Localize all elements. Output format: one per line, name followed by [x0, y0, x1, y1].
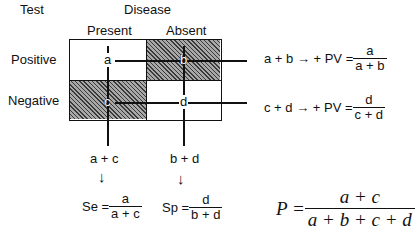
- sp-fraction: d b + d: [189, 193, 222, 222]
- sp-lhs: Sp =: [162, 200, 189, 215]
- down-arrow-icon: ↓: [177, 172, 185, 186]
- ppv-numerator: a: [364, 44, 375, 58]
- se-numerator: a: [120, 192, 131, 206]
- positive-predictive-formula: a + b → + PV = a a + b: [264, 44, 387, 73]
- positive-label: Positive: [11, 53, 57, 67]
- sp-numerator: d: [200, 193, 211, 207]
- cell-d: d: [179, 95, 188, 109]
- ppv-denominator: a + b: [353, 58, 386, 73]
- se-denominator: a + c: [109, 206, 142, 221]
- prevalence-fraction: a + c a + b + c + d: [305, 186, 415, 231]
- cell-b: b: [179, 53, 188, 67]
- test-header: Test: [20, 3, 44, 17]
- ppv-fraction: a a + b: [353, 44, 386, 73]
- ppv-lhs: a + b → + PV =: [264, 51, 353, 66]
- prevalence-formula: P = a + c a + b + c + d: [276, 186, 415, 231]
- absent-header: Absent: [166, 24, 206, 38]
- prevalence-denominator: a + b + c + d: [305, 208, 415, 231]
- contingency-table: [69, 39, 222, 121]
- table-horizontal-divider: [70, 80, 221, 81]
- negative-predictive-formula: c + d → + PV = d c + d: [264, 93, 385, 122]
- sensitivity-formula: Se = a a + c: [82, 192, 142, 221]
- cell-c: c: [103, 95, 112, 109]
- absent-column-sum: b + d: [170, 152, 199, 166]
- down-arrow-icon: ↓: [98, 170, 106, 184]
- npv-lhs: c + d → + PV =: [264, 100, 353, 115]
- specificity-formula: Sp = d b + d: [162, 193, 222, 222]
- se-lhs: Se =: [82, 199, 109, 214]
- negative-label: Negative: [8, 94, 59, 108]
- cell-a: a: [103, 53, 112, 67]
- se-fraction: a a + c: [109, 192, 142, 221]
- disease-header: Disease: [124, 3, 171, 17]
- sp-denominator: b + d: [189, 207, 222, 222]
- present-header: Present: [87, 24, 132, 38]
- npv-fraction: d c + d: [353, 93, 386, 122]
- prevalence-numerator: a + c: [337, 186, 383, 208]
- present-column-sum: a + c: [90, 152, 119, 166]
- prevalence-lhs: P =: [276, 198, 305, 220]
- npv-denominator: c + d: [353, 107, 386, 122]
- npv-numerator: d: [363, 93, 374, 107]
